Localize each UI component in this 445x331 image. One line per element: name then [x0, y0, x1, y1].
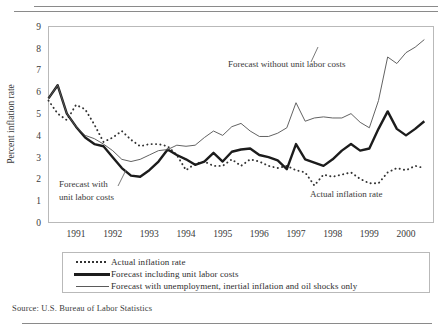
series-line-thick-solid: [49, 85, 425, 176]
y-tick-label: 8: [36, 44, 41, 54]
legend-label-actual: Actual inflation rate: [111, 257, 186, 267]
legend-item-forecast-including-ulc: Forecast including unit labor costs: [73, 268, 238, 280]
x-tick-label: 1998: [323, 229, 342, 239]
legend-label-forecast-unemployment: Forecast with unemployment, inertial inf…: [111, 281, 357, 291]
annot-actual: Actual inflation rate: [310, 189, 382, 199]
annot-forecast-with-line2: unit labor costs: [59, 192, 114, 202]
x-tick-label: 1995: [213, 229, 232, 239]
y-tick-label: 5: [36, 109, 41, 119]
y-tick-label: 7: [36, 65, 41, 75]
x-tick-label: 2000: [397, 229, 416, 239]
x-tick-label: 1993: [140, 229, 159, 239]
y-axis-title: Percent inflation rate: [6, 84, 16, 164]
bottom-rule: [22, 323, 432, 324]
y-tick-label: 1: [36, 196, 41, 206]
y-tick-label: 0: [36, 218, 41, 228]
legend-item-actual: Actual inflation rate: [73, 256, 186, 268]
x-tick-label: 1996: [250, 229, 269, 239]
chart-legend: Actual inflation rate Forecast including…: [62, 252, 430, 293]
x-tick-label: 1991: [67, 229, 86, 239]
source-note: Source: U.S. Bureau of Labor Statistics: [12, 303, 152, 313]
y-tick-label: 9: [36, 22, 41, 32]
x-tick-label: 1997: [287, 229, 306, 239]
x-tick-label: 1994: [177, 229, 196, 239]
x-tick-label: 1999: [360, 229, 379, 239]
chart-annotations: Forecast without unit labor costsForecas…: [59, 59, 382, 202]
y-axis-ticks: 0123456789: [36, 22, 41, 228]
legend-swatch-dotted-icon: [73, 256, 111, 268]
legend-item-forecast-unemployment: Forecast with unemployment, inertial inf…: [73, 280, 357, 292]
y-tick-label: 2: [36, 174, 41, 184]
figure-container: 0123456789 19911992199319941995199619971…: [0, 0, 445, 331]
x-axis-ticks: 1991199219931994199519961997199819992000: [67, 229, 416, 239]
annot-forecast-without: Forecast without unit labor costs: [228, 59, 346, 69]
y-tick-label: 3: [36, 153, 41, 163]
legend-label-forecast-including-ulc: Forecast including unit labor costs: [111, 269, 238, 279]
inflation-forecast-chart: 0123456789 19911992199319941995199619971…: [0, 0, 445, 248]
series-line-thin-solid: [49, 40, 425, 162]
y-tick-label: 6: [36, 87, 41, 97]
legend-swatch-thin-line-icon: [73, 280, 111, 292]
annot-forecast-with-line1: Forecast with: [59, 179, 108, 189]
legend-swatch-thick-line-icon: [73, 268, 111, 280]
leader-line-forecast-with: [118, 170, 126, 186]
x-tick-label: 1992: [103, 229, 122, 239]
series-line-dotted: [49, 101, 425, 186]
y-tick-label: 4: [36, 131, 41, 141]
